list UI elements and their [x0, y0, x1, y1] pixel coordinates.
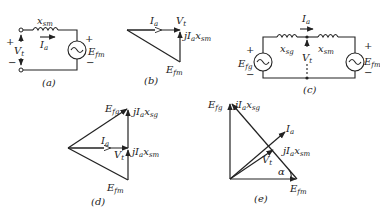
label-efg: Efg: [104, 103, 120, 116]
label-jiaxsm: jIaxsm: [130, 146, 159, 159]
caption-b: (b): [144, 75, 158, 86]
label-efm: Efm: [106, 182, 124, 195]
panel-c-circuit: Ia xsg xsm Vt + Efg − + Efm − (c): [237, 13, 380, 95]
inductor-xsg-icon: [277, 35, 297, 38]
caption-d: (d): [91, 196, 105, 207]
label-vt: Vt: [302, 52, 312, 65]
label-xsm: xsm: [37, 15, 53, 28]
label-ia: Ia: [301, 13, 310, 26]
caption-e: (e): [254, 193, 268, 204]
label-ia: Ia: [285, 123, 294, 136]
inductor-xsm-icon: [318, 35, 338, 38]
label-vt: Vt: [262, 154, 272, 167]
label-jiaxsg: jIaxsg: [131, 106, 158, 119]
panel-e-phasor: Efg jIaxsg Ia jIaxsm Vt α Efm (e): [207, 99, 310, 204]
minus-sign-source: −: [86, 57, 94, 68]
minus-sign-right: −: [364, 67, 372, 78]
figure-canvas: xsm Ia + Vt − + Efm − (a) Ia Vt jIaxsm E…: [0, 0, 380, 211]
plus-sign-right: +: [364, 40, 372, 51]
panel-d-phasor: Efg jIaxsg Ia Vt jIaxsm Efm (d): [68, 103, 159, 207]
minus-sign: −: [8, 57, 16, 68]
terminal-top: [19, 28, 23, 32]
panel-a-circuit: xsm Ia + Vt − + Efm − (a): [6, 15, 105, 88]
label-ia: Ia: [149, 15, 158, 28]
label-jiaxsm: jIaxsm: [182, 30, 211, 43]
label-xsg: xsg: [280, 43, 294, 56]
label-ia: Ia: [39, 39, 48, 52]
label-efg: Efg: [207, 99, 223, 112]
plus-sign-left: +: [246, 44, 254, 55]
minus-sign-left: −: [246, 69, 254, 80]
label-jiaxsm: jIaxsm: [281, 145, 310, 158]
label-vt: Vt: [176, 15, 186, 28]
ac-source-left-icon: [254, 53, 272, 71]
label-efm: Efm: [289, 183, 307, 196]
caption-c: (c): [303, 84, 317, 95]
caption-a: (a): [42, 77, 56, 88]
label-ia: Ia: [100, 135, 109, 148]
terminal-bottom: [19, 68, 23, 72]
ac-source-right-icon: [346, 53, 364, 71]
label-efm: Efm: [165, 64, 183, 77]
label-xsm: xsm: [318, 43, 334, 56]
panel-b-phasor: Ia Vt jIaxsm Efm (b): [127, 15, 211, 86]
label-alpha: α: [278, 166, 285, 177]
ac-source-icon: [68, 41, 86, 59]
label-vt: Vt: [114, 149, 124, 162]
plus-sign-source: +: [85, 33, 93, 44]
